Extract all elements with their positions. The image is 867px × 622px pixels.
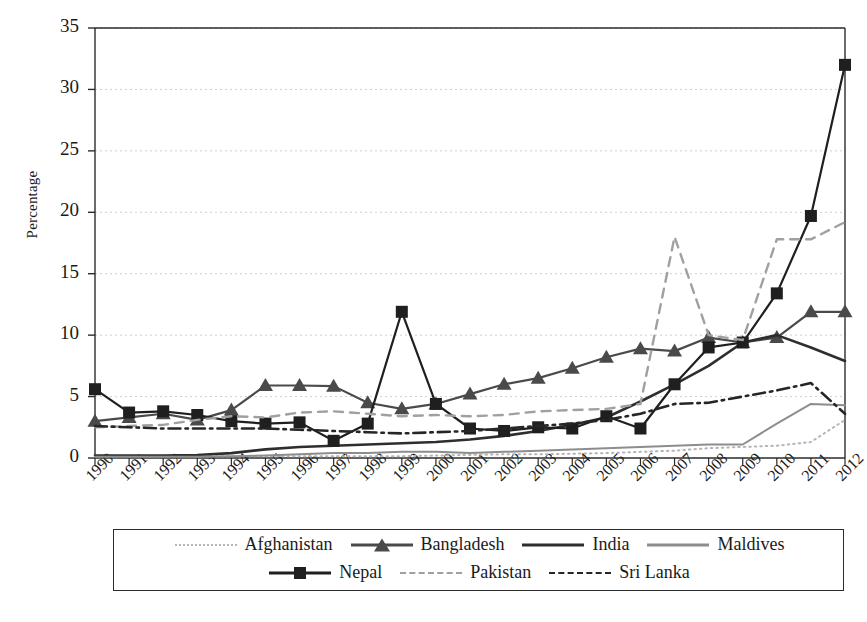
- legend-label: Afghanistan: [245, 534, 333, 555]
- legend-item-sri-lanka[interactable]: Sri Lanka: [549, 562, 689, 583]
- legend-marker-square: [294, 567, 306, 579]
- series-line: [95, 65, 845, 441]
- legend-item-bangladesh[interactable]: Bangladesh: [351, 534, 505, 555]
- legend-swatch: [549, 564, 611, 582]
- legend-line-sample: [549, 572, 611, 574]
- legend-line-sample: [175, 544, 237, 546]
- legend-label: Maldives: [717, 534, 784, 555]
- legend-label: Sri Lanka: [619, 562, 689, 583]
- legend-row: NepalPakistanSri Lanka: [114, 562, 845, 583]
- legend-line-sample: [400, 572, 462, 574]
- legend-row: AfghanistanBangladeshIndiaMaldives: [114, 534, 845, 555]
- legend-item-afghanistan[interactable]: Afghanistan: [175, 534, 333, 555]
- legend-label: Bangladesh: [421, 534, 505, 555]
- data-point-marker: [669, 378, 681, 390]
- data-point-marker: [498, 425, 510, 437]
- legend-line-sample: [647, 543, 709, 546]
- legend-item-nepal[interactable]: Nepal: [269, 562, 382, 583]
- data-point-marker: [362, 418, 374, 430]
- legend-label: Nepal: [339, 562, 382, 583]
- legend-line-sample: [522, 543, 584, 546]
- legend-item-india[interactable]: India: [522, 534, 629, 555]
- legend-swatch: [647, 536, 709, 554]
- legend-swatch: [522, 536, 584, 554]
- data-point-marker: [294, 416, 306, 428]
- chart-legend: AfghanistanBangladeshIndiaMaldives Nepal…: [113, 529, 844, 591]
- legend-swatch: [269, 564, 331, 582]
- data-point-marker: [430, 398, 442, 410]
- data-point-marker: [123, 407, 135, 419]
- legend-item-maldives[interactable]: Maldives: [647, 534, 784, 555]
- series-bangladesh: [88, 304, 853, 426]
- series-line: [95, 312, 845, 421]
- legend-swatch: [175, 536, 237, 554]
- legend-marker-triangle: [374, 538, 390, 551]
- legend-label: India: [592, 534, 629, 555]
- legend-label: Pakistan: [470, 562, 531, 583]
- data-point-marker: [634, 423, 646, 435]
- data-point-marker: [633, 341, 648, 354]
- data-point-marker: [157, 405, 169, 417]
- data-point-marker: [396, 306, 408, 318]
- legend-swatch: [400, 564, 462, 582]
- data-point-marker: [839, 59, 851, 71]
- data-point-marker: [224, 403, 239, 416]
- data-point-marker: [771, 287, 783, 299]
- legend-item-pakistan[interactable]: Pakistan: [400, 562, 531, 583]
- data-point-marker: [805, 210, 817, 222]
- data-point-marker: [89, 383, 101, 395]
- legend-swatch: [351, 536, 413, 554]
- data-point-marker: [328, 435, 340, 447]
- data-point-marker: [703, 341, 715, 353]
- data-point-marker: [464, 423, 476, 435]
